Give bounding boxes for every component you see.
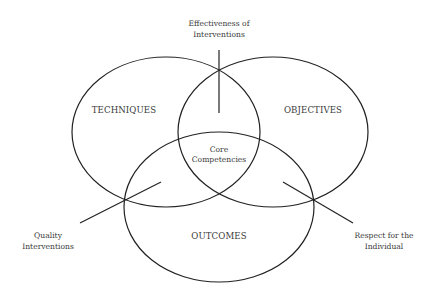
quality-pointer-line: [80, 182, 161, 223]
venn-diagram: Effectiveness of Interventions TECHNIQUE…: [0, 0, 428, 297]
core-competencies-line1: Core: [210, 145, 229, 154]
objectives-ellipse: [178, 57, 368, 207]
objectives-label: OBJECTIVES: [284, 105, 342, 115]
effectiveness-label-line1: Effectiveness of: [189, 19, 251, 28]
quality-label-line2: Interventions: [22, 242, 74, 251]
respect-pointer-line: [283, 182, 353, 223]
core-competencies-line2: Competencies: [192, 155, 247, 164]
techniques-ellipse: [72, 57, 260, 207]
effectiveness-label-line2: Interventions: [193, 30, 245, 39]
techniques-label: TECHNIQUES: [92, 105, 156, 115]
respect-label-line2: Individual: [365, 242, 404, 251]
respect-label-line1: Respect for the: [354, 231, 414, 240]
quality-label-line1: Quality: [34, 231, 63, 240]
outcomes-label: OUTCOMES: [191, 231, 246, 241]
